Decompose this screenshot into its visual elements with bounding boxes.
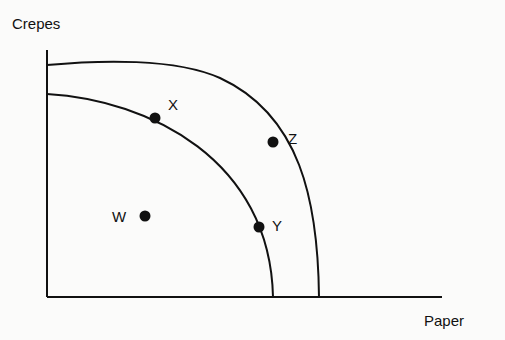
point-z-label: Z (288, 131, 297, 146)
ppf-diagram (0, 0, 505, 340)
point-w (140, 211, 151, 222)
x-axis-label: Paper (424, 313, 464, 328)
point-x (150, 113, 161, 124)
y-axis-label: Crepes (12, 16, 60, 31)
inner-curve (47, 94, 273, 297)
point-y-label: Y (272, 218, 282, 233)
point-w-label: W (112, 209, 126, 224)
point-y (254, 222, 265, 233)
outer-curve (47, 62, 319, 297)
point-x-label: X (168, 97, 178, 112)
point-z (268, 137, 279, 148)
